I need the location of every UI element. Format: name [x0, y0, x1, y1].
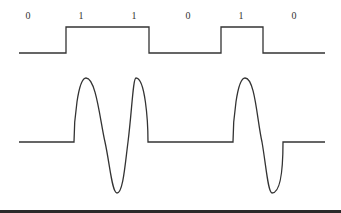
bit-label: 1 [79, 10, 84, 21]
bit-label: 0 [186, 10, 191, 21]
modulation-diagram: 0 1 1 0 1 0 [0, 0, 341, 213]
digital-square-wave [19, 27, 325, 53]
modulated-wave [19, 78, 325, 193]
bit-label: 1 [239, 10, 244, 21]
bottom-rule [0, 210, 341, 213]
bit-labels: 0 1 1 0 1 0 [26, 10, 297, 21]
bit-label: 1 [132, 10, 137, 21]
bit-label: 0 [292, 10, 297, 21]
bit-label: 0 [26, 10, 31, 21]
